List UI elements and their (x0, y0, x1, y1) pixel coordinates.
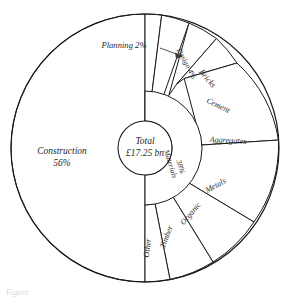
sunburst-svg: Total £17.25 bn Construction 56% Plannin… (0, 0, 290, 298)
center-total-label: Total (135, 136, 155, 146)
planning-label: Planning 2% (100, 40, 146, 50)
center-amount-label: £17.25 bn (126, 148, 164, 158)
sunburst-chart: Total £17.25 bn Construction 56% Plannin… (0, 0, 290, 298)
construction-label: Construction (37, 146, 87, 156)
figure-caption: Figure (6, 288, 29, 297)
construction-pct-label: 56% (53, 158, 71, 168)
